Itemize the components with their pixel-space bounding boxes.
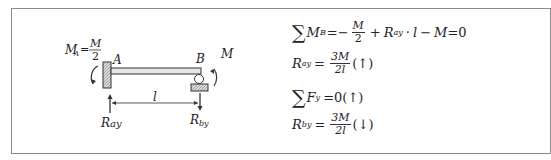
point-B-label: B [195,52,205,66]
roller-B [195,75,204,84]
moment-arrow-B [214,69,217,86]
span-label: l [153,90,157,104]
equation-sum-force-y: ∑ Fy =0 (↑) [292,88,363,107]
reaction-A-label: R [100,116,110,130]
svg-text:=: = [80,43,89,56]
beam-diagram: M A = M 2 A B M l R ay R by [0,0,290,160]
equation-R-by: Rby = 3M2l (↓) [292,112,374,136]
reaction-B-label: R [189,113,199,127]
fixed-support-A [103,62,111,88]
equation-R-ay: Ray = 3M2l (↑) [292,51,373,75]
moment-B-label: M [220,47,234,61]
svg-text:M: M [89,37,102,50]
svg-text:A: A [73,50,79,58]
point-A-label: A [112,53,122,67]
svg-text:ay: ay [110,118,122,129]
roller-base-B [191,84,208,91]
beam [111,68,201,74]
svg-text:by: by [199,119,209,128]
equation-sum-moment-B: ∑ MB =− M2 + Ray · l − M =0 [292,20,467,44]
svg-text:2: 2 [92,50,99,63]
